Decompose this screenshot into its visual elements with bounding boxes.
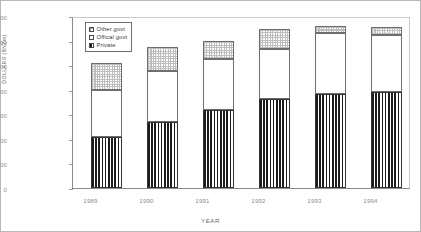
bar-segment-other-1994[interactable] (371, 27, 402, 36)
bar-segment-official-1991[interactable] (203, 59, 234, 110)
bar-segment-other-1989[interactable] (91, 63, 122, 90)
legend-label-private: Private (97, 42, 116, 48)
bar-segment-other-1992[interactable] (259, 29, 290, 49)
y-tick-label-70000: 70000 (0, 14, 7, 21)
bar-segment-private-1990[interactable] (147, 122, 178, 188)
y-tick-label-50000: 50000 (0, 63, 7, 70)
legend-label-other-govt: Other govt (97, 26, 126, 32)
legend-swatch-official-govt-icon (89, 35, 94, 40)
bar-group-1993[interactable] (315, 26, 346, 188)
legend-swatch-other-govt-icon (89, 27, 94, 32)
x-tick-label-1992: 1992 (229, 197, 289, 204)
x-tick-label-1991: 1991 (173, 197, 233, 204)
bar-segment-private-1993[interactable] (315, 94, 346, 188)
y-tick-mark (69, 189, 73, 190)
y-tick-label-20000: 20000 (0, 136, 7, 143)
bar-segment-official-1989[interactable] (91, 90, 122, 136)
bar-group-1990[interactable] (147, 47, 178, 188)
bar-segment-other-1993[interactable] (315, 26, 346, 33)
bar-segment-private-1992[interactable] (259, 99, 290, 188)
bar-group-1991[interactable] (203, 41, 234, 188)
bar-segment-official-1990[interactable] (147, 71, 178, 122)
legend-swatch-private-icon (89, 43, 94, 48)
x-axis-title: YEAR (1, 217, 420, 224)
bar-segment-official-1993[interactable] (315, 33, 346, 94)
bar-segment-private-1994[interactable] (371, 92, 402, 189)
y-tick-label-10000: 10000 (0, 161, 7, 168)
y-tick-label-60000: 60000 (0, 38, 7, 45)
bar-group-1992[interactable] (259, 29, 290, 188)
bar-segment-private-1989[interactable] (91, 137, 122, 188)
bar-segment-private-1991[interactable] (203, 110, 234, 188)
chart-legend: Other govt Offical govt Private (85, 22, 132, 52)
legend-entry-other-govt[interactable]: Other govt (89, 25, 127, 33)
x-tick-label-1990: 1990 (117, 197, 177, 204)
x-tick-label-1993: 1993 (285, 197, 345, 204)
bar-segment-other-1990[interactable] (147, 47, 178, 72)
x-tick-label-1989: 1989 (61, 197, 121, 204)
bar-segment-official-1994[interactable] (371, 35, 402, 91)
bar-group-1989[interactable] (91, 63, 122, 188)
legend-entry-official-govt[interactable]: Offical govt (89, 33, 127, 41)
bar-segment-official-1992[interactable] (259, 49, 290, 99)
bar-segment-other-1991[interactable] (203, 41, 234, 59)
bar-group-1994[interactable] (371, 27, 402, 189)
y-tick-label-40000: 40000 (0, 87, 7, 94)
legend-label-official-govt: Offical govt (97, 34, 128, 40)
y-tick-label-30000: 30000 (0, 112, 7, 119)
x-tick-label-1994: 1994 (341, 197, 401, 204)
chart-figure: DOLLARS ($NZm) 70000 60000 50000 40000 3… (0, 0, 421, 232)
legend-entry-private[interactable]: Private (89, 41, 127, 49)
y-tick-label-0: 0 (0, 186, 7, 193)
